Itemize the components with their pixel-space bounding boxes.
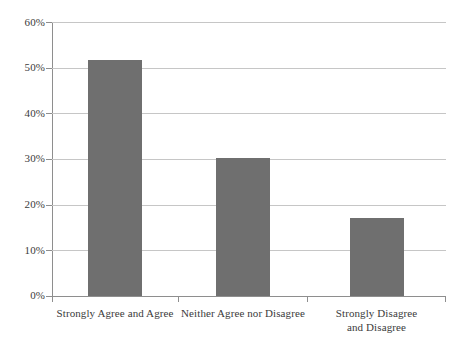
- x-axis-tick-sep-1: [178, 296, 179, 302]
- y-axis-tick-label-20: 20%: [0, 198, 45, 210]
- x-axis-tick-end: [445, 296, 446, 302]
- plot-area: [52, 22, 446, 296]
- y-axis-tick-label-40: 40%: [0, 107, 45, 119]
- y-axis-tick-label-0: 0%: [0, 289, 45, 301]
- x-axis-tick-start: [52, 296, 53, 302]
- bar-neither-agree-nor-disagree[interactable]: [216, 158, 270, 296]
- bar-strongly-agree-and-agree[interactable]: [88, 60, 142, 296]
- x-axis-category-label-2: Strongly Disagree and Disagree: [307, 306, 446, 334]
- x-axis-category-label-0: Strongly Agree and Agree: [46, 306, 184, 320]
- y-axis-tick-label-60: 60%: [0, 16, 45, 28]
- bar-chart: 60% 50% 40% 30% 20% 10% 0% Strongly Agre…: [0, 0, 459, 343]
- y-axis-tick-label-10: 10%: [0, 244, 45, 256]
- bar-strongly-disagree-and-disagree[interactable]: [350, 218, 404, 296]
- gridline-60: [52, 22, 446, 23]
- y-axis-tick-label-50: 50%: [0, 61, 45, 73]
- y-axis-tick-label-30: 30%: [0, 152, 45, 164]
- x-axis-line: [52, 296, 446, 297]
- x-axis-tick-sep-2: [307, 296, 308, 302]
- x-axis-category-label-1: Neither Agree nor Disagree: [173, 306, 313, 320]
